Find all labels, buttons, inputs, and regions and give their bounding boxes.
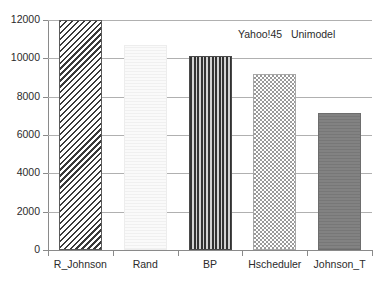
y-tick-label: 10000 bbox=[0, 52, 40, 63]
x-tick-mark bbox=[372, 251, 373, 256]
x-tick-mark bbox=[178, 251, 179, 256]
x-axis-line bbox=[48, 250, 373, 251]
x-tick-mark bbox=[113, 251, 114, 256]
y-tick-label: 4000 bbox=[0, 167, 40, 178]
bar-rand bbox=[124, 45, 167, 250]
y-tick-label: 2000 bbox=[0, 206, 40, 217]
bar-r_johnson bbox=[59, 20, 102, 250]
y-tick-label: 8000 bbox=[0, 91, 40, 102]
bar-chart: Yahoo!45 Unimodel 0200040006000800010000… bbox=[0, 0, 380, 286]
x-tick-label-r_johnson: R_Johnson bbox=[48, 259, 113, 271]
x-tick-label-rand: Rand bbox=[113, 259, 178, 271]
x-tick-mark bbox=[48, 251, 49, 256]
x-tick-label-hscheduler: Hscheduler bbox=[242, 259, 307, 271]
bar-johnson_t bbox=[318, 113, 361, 250]
plot-area bbox=[48, 20, 372, 250]
bar-hscheduler bbox=[253, 74, 296, 250]
y-tick-label: 0 bbox=[0, 244, 40, 255]
y-tick-label: 12000 bbox=[0, 14, 40, 25]
bar-bp bbox=[189, 56, 232, 250]
x-tick-mark bbox=[242, 251, 243, 256]
x-tick-mark bbox=[307, 251, 308, 256]
y-tick-label: 6000 bbox=[0, 129, 40, 140]
x-tick-label-johnson_t: Johnson_T bbox=[307, 259, 372, 271]
x-tick-label-bp: BP bbox=[178, 259, 243, 271]
